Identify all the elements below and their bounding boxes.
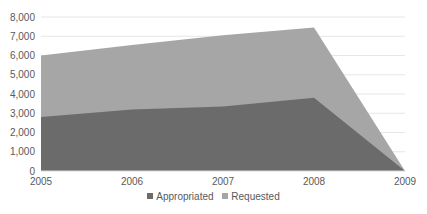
y-tick-label: 8,000 (10, 12, 35, 23)
area-chart: 01,0002,0003,0004,0005,0006,0007,0008,00… (0, 0, 427, 214)
x-tick-label: 2005 (30, 176, 53, 187)
x-tick-label: 2008 (303, 176, 326, 187)
y-tick-label: 5,000 (10, 69, 35, 80)
chart-plot: 01,0002,0003,0004,0005,0006,0007,0008,00… (0, 0, 427, 214)
y-tick-label: 4,000 (10, 89, 35, 100)
y-tick-label: 2,000 (10, 127, 35, 138)
y-tick-label: 3,000 (10, 108, 35, 119)
legend-item-requested: Requested (222, 191, 279, 202)
legend-label-requested: Requested (231, 191, 279, 202)
x-tick-label: 2009 (394, 176, 417, 187)
legend-swatch-requested (222, 193, 228, 199)
y-tick-label: 1,000 (10, 146, 35, 157)
y-tick-label: 7,000 (10, 31, 35, 42)
legend-swatch-appropriated (147, 193, 153, 199)
chart-legend: Appropriated Requested (0, 190, 427, 202)
legend-label-appropriated: Appropriated (156, 191, 213, 202)
legend-item-appropriated: Appropriated (147, 191, 213, 202)
x-tick-label: 2006 (121, 176, 144, 187)
x-tick-label: 2007 (212, 176, 235, 187)
y-tick-label: 0 (29, 166, 35, 177)
y-tick-label: 6,000 (10, 50, 35, 61)
